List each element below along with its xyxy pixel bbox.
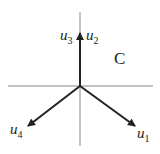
label-u3: u3 <box>60 27 73 46</box>
vector-diagram: u3 u2 u4 u1 C <box>0 0 160 154</box>
vector-u1 <box>80 86 135 126</box>
label-u2: u2 <box>86 27 99 46</box>
vector-u4 <box>28 86 80 126</box>
region-label-c: C <box>114 49 125 68</box>
label-u4: u4 <box>10 121 23 140</box>
label-u1: u1 <box>137 125 150 144</box>
